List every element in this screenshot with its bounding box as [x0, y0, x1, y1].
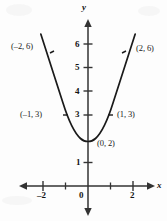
- point-label-neg2-6: (–2, 6): [11, 41, 33, 51]
- y-tick-6: 6: [75, 39, 80, 49]
- point-label-2-6: (2, 6): [136, 43, 154, 53]
- x-tick-2: 2: [130, 190, 135, 200]
- y-tick-4: 4: [75, 86, 80, 96]
- parabola-graph-figure: y x 6 5 4 3 1 –2 2 0 (–2, 6) (2, 6) (–1,…: [0, 0, 167, 221]
- y-tick-3: 3: [75, 109, 80, 119]
- y-tick-1: 1: [76, 157, 81, 167]
- y-axis-label: y: [82, 2, 86, 12]
- x-axis-label: x: [157, 180, 162, 190]
- point-label-neg1-3: (–1, 3): [20, 109, 42, 119]
- point-label-0-2: (0, 2): [97, 138, 115, 148]
- origin-label: 0: [79, 190, 84, 200]
- x-tick-neg2: –2: [37, 190, 46, 200]
- y-tick-5: 5: [75, 62, 80, 72]
- point-label-1-3: (1, 3): [117, 109, 135, 119]
